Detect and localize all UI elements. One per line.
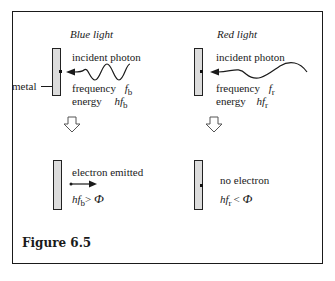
red-result-electron-dot — [200, 184, 203, 187]
figure-caption: Figure 6.5 — [22, 236, 91, 250]
blue-condition-lhs: hf — [72, 193, 81, 205]
red-condition-rhs: Φ — [243, 191, 253, 206]
red-condition-sub: r — [229, 198, 232, 208]
blue-condition: hfb> Φ — [72, 191, 104, 208]
red-condition-lhs: hf — [220, 193, 229, 205]
blue-condition-op: > — [85, 193, 91, 205]
red-result-label: no electron — [220, 174, 269, 186]
red-condition: hfr< Φ — [220, 191, 252, 208]
red-condition-op: < — [234, 193, 240, 205]
blue-condition-rhs: Φ — [94, 191, 104, 206]
